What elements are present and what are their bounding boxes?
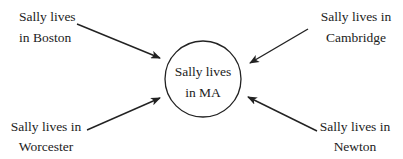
worcester-label-line1: Sally lives in <box>11 119 82 134</box>
node-cambridge: Sally lives in Cambridge <box>250 9 391 63</box>
newton-label-line2: Newton <box>334 139 377 154</box>
diagram-canvas: Sally lives in MA Sally lives in Boston … <box>0 0 403 159</box>
cambridge-label-line1: Sally lives in <box>321 9 392 24</box>
node-worcester: Sally lives in Worcester <box>11 98 160 154</box>
center-label-line2: in MA <box>185 85 221 100</box>
center-label-line1: Sally lives <box>175 64 232 79</box>
cambridge-label-line2: Cambridge <box>326 30 386 45</box>
arrow-newton-to-center <box>248 97 317 131</box>
arrow-cambridge-to-center <box>250 29 308 63</box>
boston-label-line2: in Boston <box>19 30 71 45</box>
arrow-worcester-to-center <box>87 98 160 130</box>
newton-label-line1: Sally lives in <box>320 119 391 134</box>
arrow-boston-to-center <box>77 24 160 58</box>
worcester-label-line2: Worcester <box>19 139 74 154</box>
node-newton: Sally lives in Newton <box>248 97 390 154</box>
node-boston: Sally lives in Boston <box>19 9 160 58</box>
center-node: Sally lives in MA <box>165 41 241 117</box>
boston-label-line1: Sally lives <box>19 9 76 24</box>
diagram-svg: Sally lives in MA Sally lives in Boston … <box>0 0 403 159</box>
center-circle <box>165 41 241 117</box>
